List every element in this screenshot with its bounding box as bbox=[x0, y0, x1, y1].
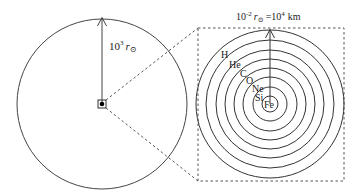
shell-labels: H He C O Ne Si Fe bbox=[221, 49, 275, 110]
star-radius-label: 103r⊙ bbox=[109, 39, 136, 54]
label-Fe: Fe bbox=[264, 99, 275, 110]
core-radius-label: 10-2r⊙=104km bbox=[236, 10, 301, 24]
label-H: H bbox=[221, 49, 228, 60]
projection-line-bottom bbox=[106, 108, 198, 181]
star-envelope-group: 103r⊙ bbox=[17, 18, 187, 190]
core-dot bbox=[100, 102, 105, 107]
onion-structure-diagram: 103r⊙ 10-2r⊙=104km H He C O Ne Si Fe bbox=[0, 0, 363, 192]
label-Si: Si bbox=[255, 92, 264, 103]
